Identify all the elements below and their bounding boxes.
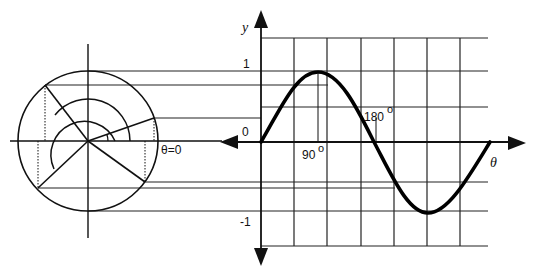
y-axis-down-arrow-icon [254, 248, 268, 266]
degree-180: o [387, 103, 393, 115]
x-axis-left-arrow-icon [220, 135, 238, 149]
y-tick-neg-one: -1 [240, 215, 251, 229]
y-axis-up-arrow-icon [254, 10, 268, 28]
y-tick-one: 1 [243, 57, 250, 71]
theta-zero-label: θ=0 [161, 143, 182, 157]
sine-unit-circle-diagram: y θ 1 0 -1 90 o 180 o θ=0 [0, 0, 534, 270]
x-axis-right-arrow-icon [508, 136, 526, 150]
radius-20deg [88, 118, 154, 141]
x-tick-180: 180 [364, 110, 384, 124]
y-tick-zero: 0 [242, 125, 249, 139]
radius-320deg [88, 141, 145, 182]
radius-220deg [38, 141, 88, 188]
angle-arc-140 [55, 99, 130, 141]
degree-90: o [318, 142, 324, 154]
radius-140deg [45, 85, 88, 141]
angle-arc-small [107, 134, 108, 141]
y-axis-label: y [240, 20, 249, 35]
x-tick-90: 90 [302, 148, 316, 162]
x-axis-label: θ [490, 155, 497, 170]
unit-circle [10, 44, 222, 238]
